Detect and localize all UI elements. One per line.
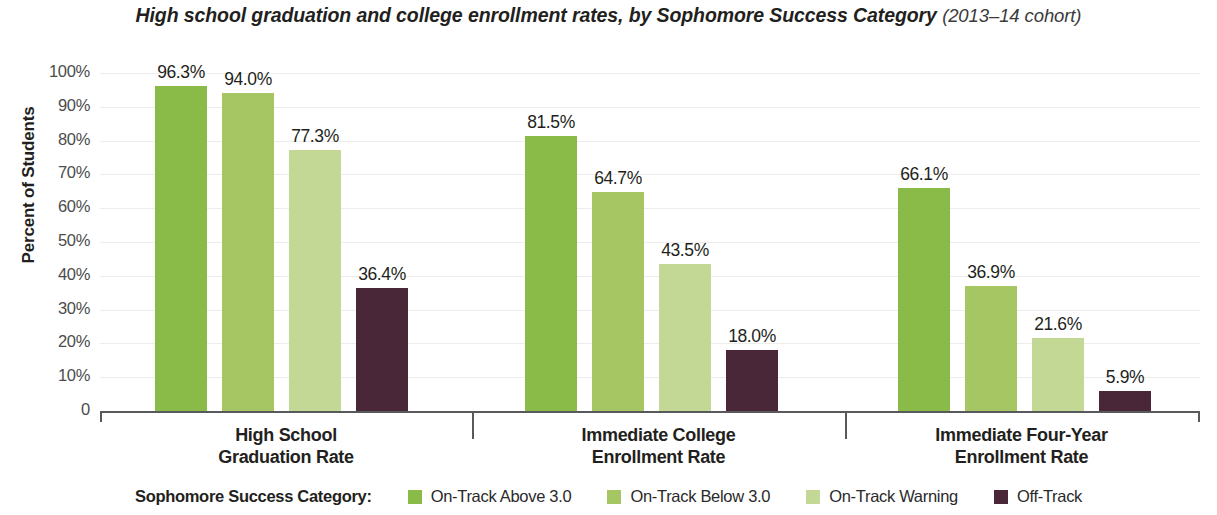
bar [1099, 391, 1151, 411]
bar-value-label: 43.5% [645, 240, 725, 261]
legend-swatch-icon [806, 490, 820, 504]
bar-value-label: 36.4% [342, 264, 422, 285]
legend-swatch-icon [408, 490, 422, 504]
chart-title-main: High school graduation and college enrol… [136, 4, 937, 26]
bar-value-label: 66.1% [884, 164, 964, 185]
x-axis-right-end-tick [1198, 411, 1200, 422]
x-axis-group-label-line: Enrollment Rate [845, 446, 1198, 468]
bar-value-label: 77.3% [275, 126, 355, 147]
y-axis-tick-label: 100% [30, 62, 90, 81]
bar [356, 288, 408, 411]
bar [659, 264, 711, 411]
bar-value-label: 64.7% [578, 168, 658, 189]
bar [222, 93, 274, 411]
bar [592, 192, 644, 411]
legend-swatch-icon [607, 490, 621, 504]
bar [965, 286, 1017, 411]
y-axis-tick-label: 20% [30, 332, 90, 351]
x-axis-group-label-line: Immediate College [472, 424, 845, 446]
y-axis-tick-label: 30% [30, 299, 90, 318]
y-axis-tick-label: 80% [30, 130, 90, 149]
bar-value-label: 18.0% [712, 326, 792, 347]
y-axis-tick-label: 60% [30, 197, 90, 216]
bar [525, 136, 577, 411]
bar [726, 350, 778, 411]
y-axis-tick-labels: 010%20%30%40%50%60%70%80%90%100% [28, 0, 90, 515]
x-axis-group-separator-tick [845, 411, 847, 439]
legend-label: On-Track Below 3.0 [630, 487, 770, 506]
x-axis-group-label-line: Enrollment Rate [472, 446, 845, 468]
x-axis-group-label-line: Immediate Four-Year [845, 424, 1198, 446]
y-axis-tick-label: 70% [30, 163, 90, 182]
chart-title: High school graduation and college enrol… [0, 4, 1217, 27]
legend: Sophomore Success Category: On-Track Abo… [0, 487, 1217, 506]
y-axis-tick-label: 0 [30, 400, 90, 419]
bar-value-label: 5.9% [1085, 367, 1165, 388]
legend-swatch-icon [994, 490, 1008, 504]
bar [155, 86, 207, 411]
y-axis-tick-label: 50% [30, 231, 90, 250]
chart-subtitle: (2013–14 cohort) [942, 5, 1081, 26]
x-axis-group-label: Immediate Four-YearEnrollment Rate [845, 424, 1198, 468]
legend-item[interactable]: Off-Track [994, 487, 1082, 506]
legend-title: Sophomore Success Category: [135, 487, 372, 506]
legend-label: On-Track Above 3.0 [431, 487, 572, 506]
legend-items: On-Track Above 3.0On-Track Below 3.0On-T… [408, 487, 1082, 506]
x-axis-group-label: High SchoolGraduation Rate [100, 424, 472, 468]
legend-item[interactable]: On-Track Warning [806, 487, 958, 506]
x-axis-group-separator-tick [472, 411, 474, 439]
bar [1032, 338, 1084, 411]
x-axis-group-label-line: High School [100, 424, 472, 446]
legend-item[interactable]: On-Track Below 3.0 [607, 487, 770, 506]
y-axis-tick-label: 10% [30, 366, 90, 385]
bar-value-label: 94.0% [208, 69, 288, 90]
legend-item[interactable]: On-Track Above 3.0 [408, 487, 572, 506]
y-axis-tick-label: 40% [30, 265, 90, 284]
x-axis-group-label: Immediate CollegeEnrollment Rate [472, 424, 845, 468]
legend-label: Off-Track [1017, 487, 1082, 506]
y-axis-tick-label: 90% [30, 96, 90, 115]
bar [289, 150, 341, 411]
bar-value-label: 36.9% [951, 262, 1031, 283]
x-axis-group-label-line: Graduation Rate [100, 446, 472, 468]
bar-value-label: 21.6% [1018, 314, 1098, 335]
x-axis-left-end-tick [100, 411, 102, 422]
x-axis-line [100, 411, 1200, 413]
legend-label: On-Track Warning [829, 487, 958, 506]
bar [898, 188, 950, 411]
plot-area: 96.3%94.0%77.3%36.4%81.5%64.7%43.5%18.0%… [100, 73, 1200, 411]
bar-value-label: 81.5% [511, 112, 591, 133]
